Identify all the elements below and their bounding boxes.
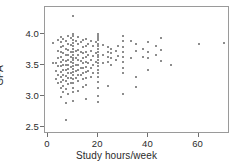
y-axis-title: GPA xyxy=(0,65,5,86)
data-point xyxy=(60,41,62,43)
data-point xyxy=(122,35,124,37)
data-point xyxy=(130,40,132,42)
data-point xyxy=(60,76,62,78)
data-point xyxy=(97,87,99,89)
x-axis-title: Study hours/week xyxy=(0,150,233,161)
data-point xyxy=(85,38,87,40)
data-point xyxy=(117,45,119,47)
data-point xyxy=(65,119,67,121)
data-point xyxy=(85,56,87,58)
x-axis-tick-mark xyxy=(147,133,148,137)
x-axis-tick-label: 40 xyxy=(142,138,153,149)
x-axis-tick-mark xyxy=(47,133,48,137)
data-point xyxy=(90,59,92,61)
data-point xyxy=(97,56,99,58)
data-point xyxy=(147,57,149,59)
data-point xyxy=(85,66,87,68)
data-point xyxy=(62,85,64,87)
data-point xyxy=(77,43,79,45)
data-point xyxy=(82,86,84,88)
data-point xyxy=(122,61,124,63)
data-point xyxy=(90,67,92,69)
data-point xyxy=(223,42,225,44)
data-point xyxy=(60,81,62,83)
data-point xyxy=(77,69,79,71)
data-point xyxy=(65,102,67,104)
data-point xyxy=(135,76,137,78)
data-point xyxy=(67,68,69,70)
data-point xyxy=(147,51,149,53)
data-point xyxy=(160,49,162,51)
data-point xyxy=(60,96,62,98)
data-point xyxy=(142,56,144,58)
data-point xyxy=(122,67,124,69)
data-point xyxy=(160,60,162,62)
data-point xyxy=(122,51,124,53)
data-point xyxy=(72,35,74,37)
data-point xyxy=(85,45,87,47)
data-point xyxy=(122,72,124,74)
x-axis-tick-label: 60 xyxy=(192,138,203,149)
data-point xyxy=(110,57,112,59)
data-point xyxy=(135,43,137,45)
data-point xyxy=(97,39,99,41)
data-point xyxy=(97,51,99,53)
data-point xyxy=(85,77,87,79)
data-point xyxy=(77,80,79,82)
data-point xyxy=(72,91,74,93)
data-point xyxy=(72,59,74,61)
data-point xyxy=(52,42,54,44)
data-point xyxy=(97,81,99,83)
data-point xyxy=(60,65,62,67)
data-point xyxy=(77,90,79,92)
data-point xyxy=(77,36,79,38)
data-point xyxy=(55,78,57,80)
data-point xyxy=(72,82,74,84)
scatter-plot-figure: 2.53.03.54.00204060 GPA Study hours/week xyxy=(0,0,233,168)
data-point xyxy=(160,37,162,39)
data-point xyxy=(97,45,99,47)
x-axis-tick-mark xyxy=(97,133,98,137)
data-point xyxy=(60,87,62,89)
y-axis-tick-label: 3.0 xyxy=(25,89,39,100)
data-point xyxy=(107,61,109,63)
x-axis-tick-label: 0 xyxy=(44,138,49,149)
data-point xyxy=(110,64,112,66)
data-point xyxy=(85,84,87,86)
data-point xyxy=(87,70,89,72)
data-point xyxy=(97,62,99,64)
data-point xyxy=(92,55,94,57)
data-point xyxy=(67,93,69,95)
data-point xyxy=(85,98,87,100)
data-point xyxy=(135,50,137,52)
data-point xyxy=(147,69,149,71)
data-point xyxy=(107,85,109,87)
data-point xyxy=(62,91,64,93)
data-point xyxy=(122,46,124,48)
y-axis-tick-label: 2.5 xyxy=(25,120,39,131)
data-point xyxy=(77,64,79,66)
data-point xyxy=(142,48,144,50)
data-point xyxy=(102,54,104,56)
data-point xyxy=(92,72,94,74)
data-point xyxy=(72,74,74,76)
data-point xyxy=(97,101,99,103)
data-point xyxy=(97,72,99,74)
data-point xyxy=(75,40,77,42)
data-point xyxy=(135,86,137,88)
data-point xyxy=(122,93,124,95)
data-point xyxy=(115,50,117,52)
data-point xyxy=(65,80,67,82)
data-point xyxy=(90,40,92,42)
x-axis-tick-label: 20 xyxy=(92,138,103,149)
data-point xyxy=(97,95,99,97)
y-axis-tick-label: 4.0 xyxy=(25,27,39,38)
y-axis-tick-label: 3.5 xyxy=(25,58,39,69)
data-point xyxy=(122,56,124,58)
data-point xyxy=(87,43,89,45)
data-point xyxy=(90,76,92,78)
data-point xyxy=(102,44,104,46)
data-point xyxy=(77,54,79,56)
data-point xyxy=(72,15,74,17)
data-point xyxy=(97,69,99,71)
